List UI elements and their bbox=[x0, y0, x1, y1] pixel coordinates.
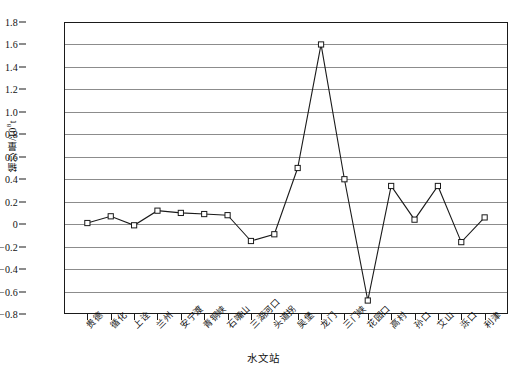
y-axis-tick-label: −0.2 bbox=[0, 241, 18, 252]
gridline bbox=[65, 179, 507, 180]
y-axis-tick-mark bbox=[19, 156, 26, 157]
y-axis-tick-label: 0 bbox=[13, 219, 18, 230]
gridline bbox=[65, 292, 507, 293]
y-axis-tick-label: 1.8 bbox=[5, 17, 18, 28]
gridline bbox=[65, 269, 507, 270]
y-axis-tick-label: 0.2 bbox=[5, 196, 18, 207]
gridline bbox=[65, 157, 507, 158]
y-axis-tick-mark bbox=[19, 89, 26, 90]
y-axis-tick-label: −0.8 bbox=[0, 309, 18, 320]
y-axis-tick-mark bbox=[19, 314, 26, 315]
y-axis-tick-mark bbox=[19, 111, 26, 112]
y-axis-tick-mark bbox=[19, 201, 26, 202]
y-axis-tick-mark bbox=[19, 22, 26, 23]
y-axis-tick-label: 0.4 bbox=[5, 174, 18, 185]
y-axis-tick-label: 1.4 bbox=[5, 61, 18, 72]
gridline bbox=[65, 67, 507, 68]
gridline bbox=[65, 112, 507, 113]
y-axis-tick-label: 1.0 bbox=[5, 106, 18, 117]
y-axis-tick-label: −0.4 bbox=[0, 264, 18, 275]
gridline bbox=[65, 134, 507, 135]
y-axis-tick-mark bbox=[19, 134, 26, 135]
gridline bbox=[65, 202, 507, 203]
gridline bbox=[65, 224, 507, 225]
y-axis-tick-label: 1.6 bbox=[5, 39, 18, 50]
y-axis-tick-mark bbox=[19, 179, 26, 180]
gridline bbox=[65, 44, 507, 45]
sediment-load-line-chart: 输沙量/108t 1.81.61.41.21.00.80.60.40.20−0.… bbox=[0, 0, 527, 373]
x-axis-title: 水文站 bbox=[0, 350, 527, 365]
y-axis-tick-mark bbox=[19, 291, 26, 292]
y-axis-tick-mark bbox=[19, 66, 26, 67]
plot-area bbox=[64, 22, 508, 314]
gridline bbox=[65, 247, 507, 248]
y-axis-tick-mark bbox=[19, 246, 26, 247]
y-axis-tick-mark bbox=[19, 44, 26, 45]
y-axis-tick-mark bbox=[19, 269, 26, 270]
y-axis-tick-label: 0.6 bbox=[5, 151, 18, 162]
y-axis-tick-label: −0.6 bbox=[0, 286, 18, 297]
y-axis: 输沙量/108t 1.81.61.41.21.00.80.60.40.20−0.… bbox=[0, 0, 64, 373]
y-axis-tick-mark bbox=[19, 224, 26, 225]
y-axis-tick-label: 1.2 bbox=[5, 84, 18, 95]
gridline bbox=[65, 89, 507, 90]
y-axis-tick-label: 0.8 bbox=[5, 129, 18, 140]
